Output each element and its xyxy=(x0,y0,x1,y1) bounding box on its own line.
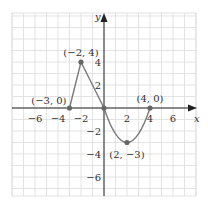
tick-labels: −6−4−2246−6−4−224 xyxy=(28,57,177,183)
y-tick-label: −6 xyxy=(86,172,101,183)
x-tick-label: −2 xyxy=(74,113,89,124)
x-axis-label: x xyxy=(194,113,200,124)
point-label: (−3, 0) xyxy=(31,95,66,106)
point-label: (2, −3) xyxy=(109,149,144,160)
data-point xyxy=(147,105,152,110)
y-tick-label: 4 xyxy=(95,57,101,68)
y-tick-label: −2 xyxy=(86,126,101,137)
y-axis-label: y xyxy=(94,11,101,22)
function-graph: x y −6−4−2246−6−4−224 (−3, 0)(−2, 4)(2, … xyxy=(0,0,208,207)
data-point xyxy=(78,59,83,64)
y-axis-arrow-icon xyxy=(101,13,108,22)
x-tick-label: 6 xyxy=(170,113,176,124)
x-tick-label: 2 xyxy=(124,113,130,124)
data-point xyxy=(124,140,129,145)
x-tick-label: −6 xyxy=(28,113,43,124)
y-tick-label: −4 xyxy=(86,149,101,160)
point-label: (−2, 4) xyxy=(63,47,98,58)
point-label: (4, 0) xyxy=(137,93,164,104)
data-point xyxy=(101,105,106,110)
y-tick-label: 2 xyxy=(95,80,101,91)
x-tick-label: −4 xyxy=(51,113,66,124)
data-point xyxy=(67,105,72,110)
